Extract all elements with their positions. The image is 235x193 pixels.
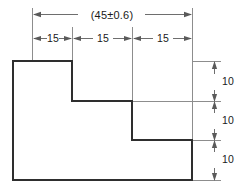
segment-2-label: 15 [97, 32, 109, 44]
seg1-arrow-right [64, 36, 72, 41]
seg3-arrow-left [133, 36, 141, 41]
incremental-width-dimensions: 15 15 15 [33, 32, 192, 44]
seg3-arrow-right [184, 36, 192, 41]
overall-dimension-label: (45±0.6) [91, 9, 134, 21]
overall-arrow-left [33, 12, 41, 17]
height1-arrow-top [212, 61, 217, 69]
height-dimensions: 10 10 10 [212, 61, 234, 181]
seg1-arrow-left [33, 36, 41, 41]
height3-arrow-bottom [212, 173, 217, 181]
height-3-label: 10 [222, 153, 234, 165]
height-2-label: 10 [222, 114, 234, 126]
technical-drawing: (45±0.6) 15 15 15 [0, 0, 235, 193]
height2-arrow-top [212, 101, 217, 109]
segment-1-label: 15 [47, 32, 59, 44]
segment-3-label: 15 [157, 32, 169, 44]
part-profile-outline [13, 61, 192, 180]
drawing-canvas: (45±0.6) 15 15 15 [0, 0, 235, 193]
overall-width-dimension: (45±0.6) [33, 9, 192, 21]
height1-arrow-bottom [212, 94, 217, 102]
height2-arrow-bottom [212, 133, 217, 141]
seg2-arrow-left [73, 36, 81, 41]
height-1-label: 10 [222, 75, 234, 87]
seg2-arrow-right [124, 36, 132, 41]
overall-arrow-right [184, 12, 192, 17]
height3-arrow-top [212, 140, 217, 148]
